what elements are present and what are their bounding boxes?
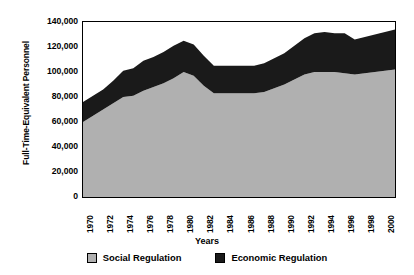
x-axis-tick-label: 1988 [267, 215, 275, 233]
y-axis-title: Full-Time-Equivalent Personnel [21, 13, 31, 193]
legend-item[interactable]: Economic Regulation [215, 252, 327, 263]
legend-label: Economic Regulation [231, 252, 327, 263]
legend-swatch [87, 253, 97, 263]
legend-swatch [215, 253, 225, 263]
y-axis-tick-label: 100,000 [32, 67, 78, 76]
x-axis-tick-label: 1992 [307, 215, 315, 233]
y-axis-tick-label: 40,000 [32, 142, 78, 151]
x-axis-tick-label: 1980 [186, 215, 194, 233]
plot-svg [83, 22, 395, 197]
stacked-area-chart: 020,00040,00060,00080,000100,000120,0001… [0, 0, 414, 275]
y-axis-tick-label: 20,000 [32, 167, 78, 176]
x-axis-title: Years [0, 236, 414, 246]
y-axis-tick-label: 60,000 [32, 117, 78, 126]
x-axis-tick-label: 1990 [287, 215, 295, 233]
x-axis-tick-label: 1982 [206, 215, 214, 233]
x-axis-tick-label: 1974 [126, 215, 134, 233]
y-axis-tick-label: 140,000 [32, 17, 78, 26]
x-axis-tick-label: 2000 [387, 215, 395, 233]
y-axis-tick-label: 80,000 [32, 92, 78, 101]
x-axis-tick-label: 1976 [146, 215, 154, 233]
x-axis-tick-label: 1986 [247, 215, 255, 233]
chart-legend: Social RegulationEconomic Regulation [0, 252, 414, 263]
plot-area [82, 21, 396, 198]
x-axis-tick-label: 1972 [106, 215, 114, 233]
x-axis-tick-label: 1994 [327, 215, 335, 233]
x-axis-tick-label: 1970 [86, 215, 94, 233]
x-axis-tick-label: 1996 [347, 215, 355, 233]
x-axis-tick-label: 1984 [226, 215, 234, 233]
y-axis-tick-label: 0 [32, 192, 78, 201]
y-axis-tick-labels: 020,00040,00060,00080,000100,000120,0001… [24, 0, 78, 275]
x-axis-tick-label: 1998 [367, 215, 375, 233]
legend-label: Social Regulation [103, 252, 182, 263]
legend-item[interactable]: Social Regulation [87, 252, 182, 263]
y-axis-tick-label: 120,000 [32, 42, 78, 51]
x-axis-tick-label: 1978 [166, 215, 174, 233]
